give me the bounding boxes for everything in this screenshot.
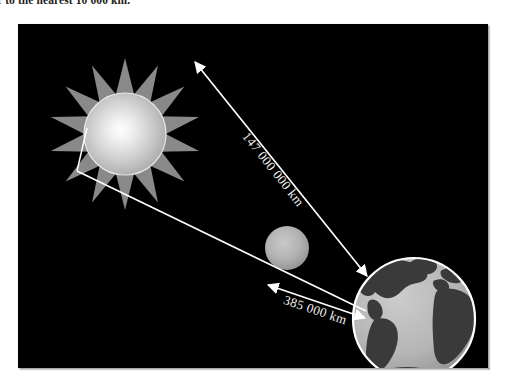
- sun-disc: [84, 93, 166, 175]
- panel-shadow-right: [488, 26, 491, 370]
- caption-text: er to the nearest 10 000 km.: [0, 0, 300, 7]
- panel-shadow-bottom: [20, 368, 490, 371]
- caption-line: er to the nearest 10 000 km.: [0, 0, 300, 7]
- moon-disc: [265, 226, 309, 270]
- solar-distance-diagram: 147 000 000 km 385 000 km: [18, 24, 488, 368]
- figure-panel: 147 000 000 km 385 000 km: [18, 24, 488, 368]
- page-root: er to the nearest 10 000 km.: [0, 0, 511, 384]
